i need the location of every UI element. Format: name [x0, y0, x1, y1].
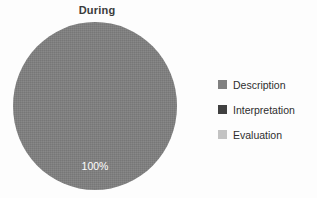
- legend-item-evaluation[interactable]: Evaluation: [218, 122, 295, 147]
- pie-slice-value-label: 100%: [13, 160, 177, 172]
- chart-legend: Description Interpretation Evaluation: [218, 72, 295, 147]
- pie-plot-area: 100%: [13, 22, 177, 190]
- legend-swatch-evaluation-icon: [218, 130, 227, 139]
- legend-item-description[interactable]: Description: [218, 72, 295, 97]
- chart-title: During: [40, 3, 154, 17]
- legend-swatch-interpretation-icon: [218, 105, 227, 114]
- legend-item-interpretation[interactable]: Interpretation: [218, 97, 295, 122]
- pie-chart-figure: During 100% Description Interpretation E…: [0, 0, 317, 198]
- legend-label-interpretation: Interpretation: [233, 104, 295, 116]
- legend-label-evaluation: Evaluation: [233, 129, 282, 141]
- legend-swatch-description-icon: [218, 80, 227, 89]
- legend-label-description: Description: [233, 79, 286, 91]
